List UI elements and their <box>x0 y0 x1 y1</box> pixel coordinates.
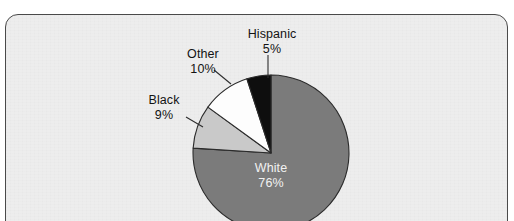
pie-label-black-name: Black <box>131 93 197 108</box>
pie-label-white-value: 76% <box>232 176 310 191</box>
pie-label-other: Other 10% <box>167 47 239 76</box>
pie-label-hispanic-value: 5% <box>229 42 315 57</box>
pie-label-hispanic-name: Hispanic <box>229 27 315 42</box>
pie-label-white: White 76% <box>232 161 310 190</box>
pie-label-hispanic: Hispanic 5% <box>229 27 315 56</box>
pie-label-other-value: 10% <box>167 62 239 77</box>
pie-label-black: Black 9% <box>131 93 197 122</box>
chart-screenshot: Hispanic 5% Other 10% Black 9% White 76% <box>0 0 514 221</box>
pie-label-white-name: White <box>232 161 310 176</box>
pie-label-other-name: Other <box>167 47 239 62</box>
pie-label-black-value: 9% <box>131 108 197 123</box>
